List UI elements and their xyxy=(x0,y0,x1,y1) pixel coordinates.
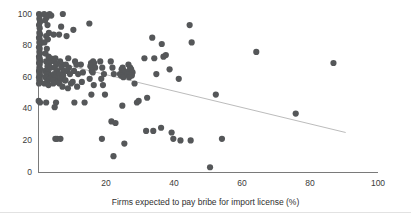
data-point xyxy=(41,39,47,45)
y-tick-label: 100 xyxy=(8,10,32,19)
data-point xyxy=(79,79,85,85)
data-point xyxy=(98,76,104,82)
data-point xyxy=(52,104,58,110)
data-point xyxy=(144,95,150,101)
data-point xyxy=(150,128,156,134)
x-tick-label: 60 xyxy=(227,179,257,188)
axes-group xyxy=(38,13,378,172)
plot-canvas xyxy=(0,0,411,216)
data-point xyxy=(177,137,183,143)
data-point xyxy=(86,20,92,26)
data-point xyxy=(207,164,213,170)
data-point xyxy=(43,99,49,105)
data-point xyxy=(88,91,94,97)
data-point xyxy=(87,76,93,82)
data-point xyxy=(74,84,80,90)
data-point xyxy=(91,82,97,88)
y-tick-label: 40 xyxy=(8,104,32,113)
data-points xyxy=(36,11,337,170)
data-point xyxy=(111,71,117,77)
x-tick-label: 20 xyxy=(91,179,121,188)
bottom-divider xyxy=(0,212,411,213)
data-point xyxy=(58,24,64,30)
data-point xyxy=(293,110,299,116)
data-point xyxy=(121,140,127,146)
data-point xyxy=(166,66,172,72)
data-point xyxy=(80,69,86,75)
data-point xyxy=(57,136,63,142)
data-point xyxy=(126,74,132,80)
data-point xyxy=(153,71,159,77)
x-tick-label: 100 xyxy=(363,179,393,188)
data-point xyxy=(159,41,165,47)
scatter-plot-figure: 020406080100 20406080100 Firms expected … xyxy=(0,0,411,216)
data-point xyxy=(100,82,106,88)
y-tick-label: 20 xyxy=(8,136,32,145)
data-point xyxy=(102,91,108,97)
data-point xyxy=(70,27,76,33)
trendline xyxy=(38,58,346,132)
data-point xyxy=(51,31,57,37)
y-tick-label: 80 xyxy=(8,41,32,50)
data-point xyxy=(219,136,225,142)
y-tick-label: 60 xyxy=(8,73,32,82)
data-point xyxy=(109,65,115,71)
data-point xyxy=(50,80,56,86)
data-point xyxy=(60,11,66,17)
data-point xyxy=(71,99,77,105)
plot-area: 020406080100 20406080100 xyxy=(0,0,411,216)
data-point xyxy=(169,129,175,135)
data-point xyxy=(59,84,65,90)
data-point xyxy=(213,91,219,97)
x-tick-label: 80 xyxy=(295,179,325,188)
trendline-path xyxy=(38,58,346,132)
data-point xyxy=(187,22,193,28)
data-point xyxy=(99,136,105,142)
data-point xyxy=(65,85,71,91)
data-point xyxy=(90,69,96,75)
data-point xyxy=(62,77,68,83)
data-point xyxy=(163,52,169,58)
data-point xyxy=(112,120,118,126)
y-tick-label: 0 xyxy=(8,168,32,177)
x-tick-label: 40 xyxy=(159,179,189,188)
data-point xyxy=(330,60,336,66)
data-point xyxy=(70,79,76,85)
data-point xyxy=(99,65,105,71)
data-point xyxy=(149,35,155,41)
data-point xyxy=(110,153,116,159)
data-point xyxy=(143,128,149,134)
data-point xyxy=(48,12,54,18)
data-point xyxy=(176,76,182,82)
data-point xyxy=(158,125,164,131)
data-point xyxy=(37,99,43,105)
data-point xyxy=(119,103,125,109)
data-point xyxy=(136,98,142,104)
data-point xyxy=(36,80,42,86)
data-point xyxy=(65,55,71,61)
data-point xyxy=(253,49,259,55)
data-point xyxy=(108,58,114,64)
data-point xyxy=(131,80,137,86)
x-axis-title: Firms expected to pay bribe for import l… xyxy=(0,197,411,207)
data-point xyxy=(188,137,194,143)
data-point xyxy=(81,99,87,105)
data-point xyxy=(170,136,176,142)
data-point xyxy=(56,31,62,37)
data-point xyxy=(151,55,157,61)
data-point xyxy=(44,22,50,28)
data-point xyxy=(189,39,195,45)
data-point xyxy=(97,58,103,64)
data-point xyxy=(78,61,84,67)
data-point xyxy=(141,55,147,61)
data-point xyxy=(63,33,69,39)
